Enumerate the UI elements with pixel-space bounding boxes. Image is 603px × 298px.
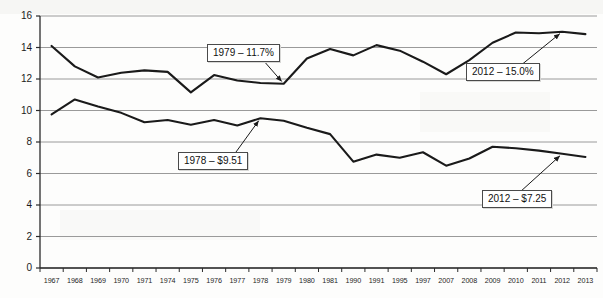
y-axis-tick-label: 14 [6, 43, 32, 53]
x-axis-tick-label: 2013 [572, 277, 598, 285]
x-axis-tick-label: 1995 [387, 277, 413, 285]
y-axis-tick-label: 8 [6, 137, 32, 147]
y-axis-tick-label: 4 [6, 200, 32, 210]
x-axis-tick-label: 1967 [39, 277, 65, 285]
x-axis-tick-label: 1978 [247, 277, 273, 285]
x-axis-tick-label: 1968 [62, 277, 88, 285]
annotation-2012-dollar: 2012 – $7.25 [482, 190, 552, 208]
annotation-2012-percent: 2012 – 15.0% [466, 63, 540, 81]
annotation-1978-dollar: 1978 – $9.51 [178, 152, 248, 170]
x-axis-tick-label: 1969 [85, 277, 111, 285]
x-axis-tick-label: 1975 [178, 277, 204, 285]
x-axis-tick-label: 1990 [340, 277, 366, 285]
y-axis-tick-label: 2 [6, 232, 32, 242]
y-axis-tick-label: 16 [6, 11, 32, 21]
y-axis-tick-label: 12 [6, 74, 32, 84]
x-axis-tick-label: 1980 [294, 277, 320, 285]
x-axis-tick-label: 1977 [224, 277, 250, 285]
x-axis-tick-label: 2010 [503, 277, 529, 285]
x-axis-tick-label: 1991 [364, 277, 390, 285]
x-axis-tick-label: 2009 [480, 277, 506, 285]
y-axis-tick-label: 0 [6, 263, 32, 273]
x-axis-tick-label: 1970 [108, 277, 134, 285]
x-axis-tick-label: 1976 [201, 277, 227, 285]
y-axis-tick-label: 6 [6, 169, 32, 179]
x-axis-tick-label: 1981 [317, 277, 343, 285]
x-axis-tick-label: 1974 [155, 277, 181, 285]
x-axis-tick-label: 2008 [456, 277, 482, 285]
line-chart: 0246810121416 19671968196919701971197419… [0, 0, 603, 298]
y-axis-tick-label: 10 [6, 106, 32, 116]
x-axis-tick-label: 1979 [271, 277, 297, 285]
series-line-dollars [52, 99, 586, 165]
annotation-leader-line [520, 34, 560, 66]
annotation-1979-percent: 1979 – 11.7% [207, 44, 280, 62]
x-axis-tick-label: 1997 [410, 277, 436, 285]
plot-area [0, 0, 603, 298]
x-axis-tick-label: 2012 [549, 277, 575, 285]
x-axis-tick-label: 2011 [526, 277, 552, 285]
x-axis-tick-label: 2007 [433, 277, 459, 285]
annotation-leader-line [263, 60, 282, 81]
x-axis-tick-label: 1971 [131, 277, 157, 285]
